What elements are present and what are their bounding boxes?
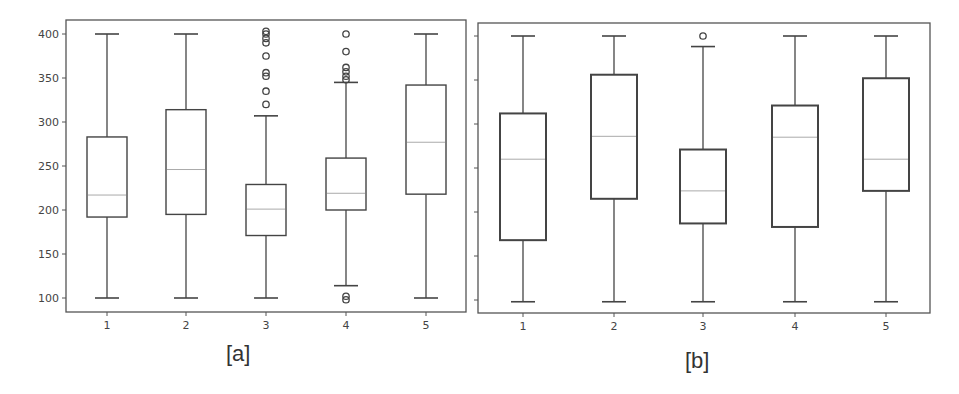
- x-tick-label: 5: [883, 320, 890, 333]
- box-3: [680, 33, 726, 302]
- x-tick-label: 2: [611, 320, 618, 333]
- box-4: [772, 36, 818, 302]
- figure: 10015020025030035040012345 12345 [a] [b]: [0, 0, 959, 394]
- panel-label-b: [b]: [685, 348, 709, 374]
- iqr-box: [772, 106, 818, 227]
- boxplot-panel-b: 12345: [0, 0, 959, 394]
- x-tick-label: 4: [792, 320, 799, 333]
- outlier-marker: [700, 33, 706, 39]
- iqr-box: [500, 113, 546, 240]
- x-tick-label: 1: [520, 320, 527, 333]
- box-5: [863, 36, 909, 302]
- iqr-box: [863, 78, 909, 191]
- box-1: [500, 36, 546, 302]
- iqr-box: [680, 150, 726, 224]
- box-2: [591, 36, 637, 302]
- x-tick-label: 3: [700, 320, 707, 333]
- panel-label-a: [a]: [226, 341, 250, 367]
